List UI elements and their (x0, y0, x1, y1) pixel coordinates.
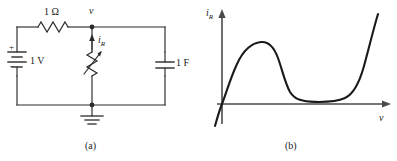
capacitor-label: 1 F (176, 58, 189, 68)
node-dot-bottom (90, 103, 95, 108)
y-axis-label: iR (206, 7, 214, 21)
figure-root: 1 Ω v iR + − 1 V 1 F (a) iR v (0, 0, 397, 161)
current-label-subscript: R (101, 40, 105, 48)
node-dot-top (90, 25, 95, 30)
panel-circuit-schematic: 1 Ω v iR + − 1 V 1 F (a) (0, 0, 199, 161)
resistor-zigzag (38, 22, 68, 32)
node-voltage-label: v (89, 6, 93, 16)
resistor-label: 1 Ω (44, 7, 59, 17)
x-axis-arrowhead (382, 100, 391, 107)
panel-iv-characteristic-plot: iR v (b) (199, 0, 397, 161)
caption-a: (a) (85, 140, 96, 151)
x-axis-label: v (379, 112, 384, 123)
y-axis-label-subscript: R (208, 13, 214, 21)
current-arrow-head (89, 34, 95, 41)
plot-svg: iR v (199, 0, 397, 135)
iv-characteristic-curve (215, 14, 378, 126)
y-axis-arrowhead (218, 9, 225, 18)
nonlinear-current-label: iR (98, 35, 105, 48)
caption-b: (b) (285, 140, 297, 151)
source-plus-sign: + (9, 43, 14, 52)
circuit-svg (0, 0, 199, 135)
voltage-source-label: 1 V (30, 56, 45, 66)
source-minus-sign: − (9, 62, 14, 71)
